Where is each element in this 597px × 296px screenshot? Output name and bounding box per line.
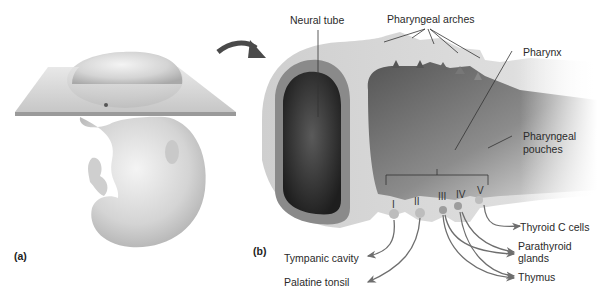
neural-tube-lumen [283, 72, 341, 215]
pouch-numeral-2: II [414, 196, 420, 207]
label-parathyroid-1: Parathyroid [518, 240, 572, 252]
label-tympanic-cavity: Tympanic cavity [284, 252, 359, 264]
label-palatine-tonsil: Palatine tonsil [284, 276, 349, 288]
pouch-numeral-5: V [477, 185, 484, 196]
label-neural-tube: Neural tube [290, 14, 344, 26]
curved-arrow-head-icon [248, 40, 266, 58]
pouch-numeral-4: IV [456, 189, 465, 200]
label-parathyroid-2: glands [518, 252, 549, 264]
panel-label-b: (b) [253, 245, 266, 257]
pouch-numeral-3: III [438, 191, 446, 202]
label-pharyngeal-pouches-2: pouches [523, 143, 563, 155]
embryo-illustration [15, 52, 236, 248]
label-thyroid-c-cells: Thyroid C cells [520, 221, 589, 233]
panel-label-a: (a) [14, 250, 27, 262]
label-pharyngeal-arches: Pharyngeal arches [387, 13, 475, 25]
label-thymus: Thymus [518, 271, 555, 283]
label-pharyngeal-pouches-1: Pharyngeal [523, 130, 576, 142]
label-pharynx: Pharynx [523, 46, 562, 58]
pouch-numeral-1: I [392, 199, 395, 210]
section-plane-edge [15, 112, 236, 116]
